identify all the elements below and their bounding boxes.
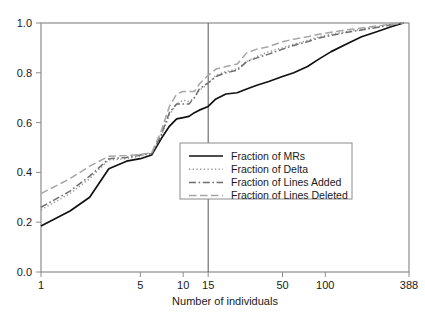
legend-label-2: Fraction of Lines Added: [231, 176, 341, 188]
chart-figure: 0.00.20.40.60.81.0 15101550100388 Number…: [0, 0, 425, 323]
y-tick-label: 0.2: [17, 216, 32, 228]
y-tick-label: 0.4: [17, 166, 32, 178]
legend-label-0: Fraction of MRs: [231, 150, 305, 162]
y-tick-label: 1.0: [17, 17, 32, 29]
x-tick-label: 1: [38, 279, 44, 291]
x-tick-label: 5: [137, 279, 143, 291]
y-tick-label: 0.8: [17, 67, 32, 79]
x-axis-title: Number of individuals: [172, 295, 278, 307]
legend-label-1: Fraction of Delta: [231, 163, 308, 175]
x-tick-label: 100: [316, 279, 334, 291]
y-tick-label: 0.0: [17, 266, 32, 278]
x-tick-label: 50: [276, 279, 288, 291]
x-tick-label: 15: [202, 279, 214, 291]
chart-legend: Fraction of MRsFraction of DeltaFraction…: [180, 143, 352, 201]
y-tick-label: 0.6: [17, 117, 32, 129]
x-tick-label: 10: [177, 279, 189, 291]
x-tick-label: 388: [400, 279, 418, 291]
legend-label-3: Fraction of Lines Deleted: [231, 189, 348, 201]
